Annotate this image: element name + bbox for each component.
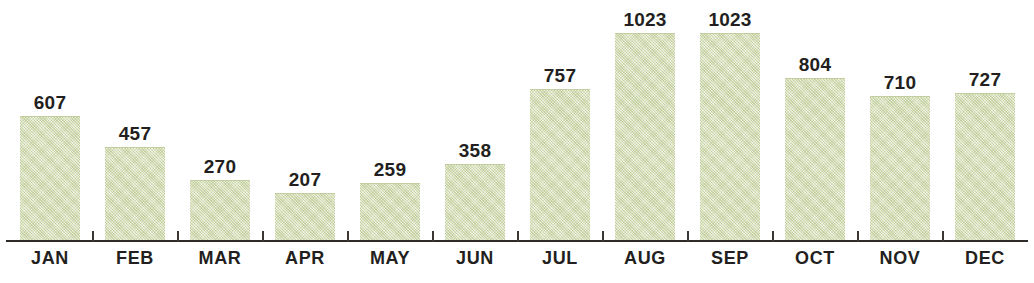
bar-group-oct[interactable]: 804	[785, 0, 845, 241]
x-label-aug: AUG	[603, 246, 687, 270]
plot-area: 607 457 270 207 259 358 75	[0, 0, 1034, 241]
x-label-oct: OCT	[773, 246, 857, 270]
axis-tick	[857, 231, 859, 242]
x-label-jul: JUL	[518, 246, 602, 270]
bar-rect-jan[interactable]	[20, 116, 80, 241]
bar-value-dec: 727	[943, 70, 1027, 90]
bar-group-jun[interactable]: 358	[445, 0, 505, 241]
bar-group-sep[interactable]: 1023	[700, 0, 760, 241]
x-label-nov: NOV	[858, 246, 942, 270]
bar-rect-jul[interactable]	[530, 89, 590, 241]
bar-group-may[interactable]: 259	[360, 0, 420, 241]
bar-rect-sep[interactable]	[700, 33, 760, 241]
bar-group-jan[interactable]: 607	[20, 0, 80, 241]
bar-rect-may[interactable]	[360, 183, 420, 241]
axis-tick	[687, 231, 689, 242]
bar-rect-aug[interactable]	[615, 33, 675, 241]
bar-value-feb: 457	[93, 124, 177, 144]
bar-group-nov[interactable]: 710	[870, 0, 930, 241]
bar-rect-oct[interactable]	[785, 78, 845, 241]
x-label-feb: FEB	[93, 246, 177, 270]
bar-value-nov: 710	[858, 73, 942, 93]
x-label-sep: SEP	[688, 246, 772, 270]
axis-tick	[942, 231, 944, 242]
bar-value-jan: 607	[8, 93, 92, 113]
axis-tick	[177, 231, 179, 242]
axis-tick	[262, 231, 264, 242]
bar-value-jul: 757	[518, 66, 602, 86]
bar-rect-feb[interactable]	[105, 147, 165, 241]
bar-group-feb[interactable]: 457	[105, 0, 165, 241]
bar-rect-apr[interactable]	[275, 193, 335, 241]
axis-tick	[432, 231, 434, 242]
bar-group-dec[interactable]: 727	[955, 0, 1015, 241]
bar-value-jun: 358	[433, 141, 517, 161]
bar-value-apr: 207	[263, 170, 347, 190]
bar-rect-mar[interactable]	[190, 180, 250, 241]
x-label-mar: MAR	[178, 246, 262, 270]
bar-value-aug: 1023	[603, 10, 687, 30]
bar-rect-dec[interactable]	[955, 93, 1015, 241]
bar-value-oct: 804	[773, 55, 857, 75]
x-label-apr: APR	[263, 246, 347, 270]
axis-tick	[347, 231, 349, 242]
bar-chart: 607 457 270 207 259 358 75	[0, 0, 1034, 283]
bar-rect-nov[interactable]	[870, 96, 930, 241]
bar-value-sep: 1023	[688, 10, 772, 30]
x-label-jan: JAN	[8, 246, 92, 270]
bar-value-mar: 270	[178, 157, 262, 177]
bar-value-may: 259	[348, 160, 432, 180]
x-axis-line	[6, 240, 1028, 242]
bar-group-apr[interactable]: 207	[275, 0, 335, 241]
bar-group-jul[interactable]: 757	[530, 0, 590, 241]
scan-artifact-strip	[0, 268, 1034, 283]
bar-rect-jun[interactable]	[445, 164, 505, 241]
axis-tick	[602, 231, 604, 242]
axis-tick	[517, 231, 519, 242]
axis-tick	[92, 231, 94, 242]
x-label-jun: JUN	[433, 246, 517, 270]
bar-group-mar[interactable]: 270	[190, 0, 250, 241]
axis-tick	[772, 231, 774, 242]
bar-group-aug[interactable]: 1023	[615, 0, 675, 241]
x-label-dec: DEC	[943, 246, 1027, 270]
x-label-may: MAY	[348, 246, 432, 270]
